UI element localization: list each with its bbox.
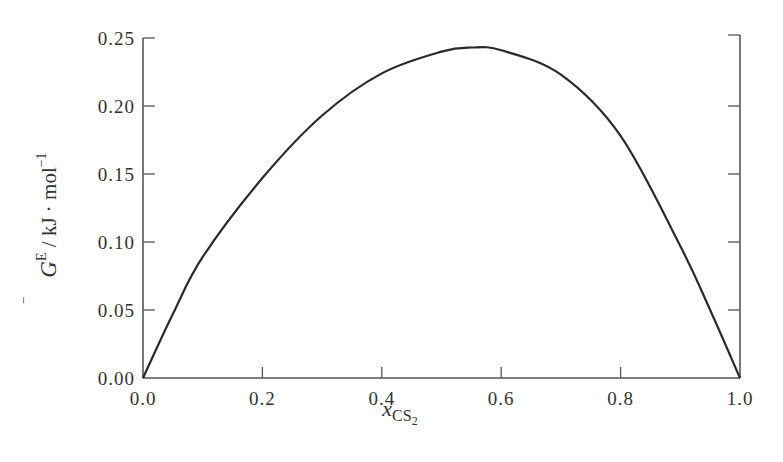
data-series xyxy=(143,47,740,378)
y-tick-label: 0.05 xyxy=(98,300,135,321)
y-tick-label: 0.00 xyxy=(98,368,135,389)
y-axis-label-sup: E xyxy=(34,252,49,261)
y-tick-label: 0.20 xyxy=(98,96,135,117)
y-axis-ticks-left: 0.000.050.100.150.200.25 xyxy=(98,28,155,389)
y-tick-label: 0.10 xyxy=(98,232,135,253)
y-axis-ticks-right xyxy=(728,35,740,310)
x-axis-label-main: x xyxy=(381,396,392,421)
y-axis-label-main: G xyxy=(36,261,61,278)
x-tick-label: 1.0 xyxy=(727,388,754,409)
data-curve xyxy=(143,47,740,378)
x-axis-label: xCS2 xyxy=(381,396,417,428)
x-tick-label: 0.6 xyxy=(488,388,515,409)
svg-text:GE / kJ · mol−1: GE / kJ · mol−1 xyxy=(34,152,61,277)
x-axis-label-subsub: 2 xyxy=(412,414,418,428)
x-axis-ticks: 0.00.20.40.60.81.0 xyxy=(130,367,754,409)
x-tick-label: 0.2 xyxy=(249,388,276,409)
plot-frame xyxy=(143,35,740,378)
x-axis-label-sub: CS xyxy=(392,407,412,424)
y-tick-label: 0.25 xyxy=(98,28,135,49)
x-tick-label: 0.0 xyxy=(130,388,157,409)
x-tick-label: 0.8 xyxy=(607,388,634,409)
y-axis-label-bar: ‾ xyxy=(23,297,40,304)
y-axis-label: GE / kJ · mol−1 ‾ xyxy=(23,152,61,304)
y-tick-label: 0.15 xyxy=(98,164,135,185)
y-axis-label-units-sup: −1 xyxy=(34,152,49,167)
y-axis-label-units: / kJ · mol xyxy=(37,167,61,252)
chart: 0.00.20.40.60.81.0 0.000.050.100.150.200… xyxy=(0,0,783,462)
